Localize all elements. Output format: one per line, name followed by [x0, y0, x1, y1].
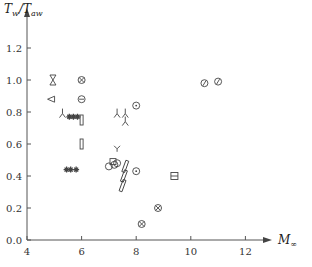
y-axis [24, 8, 30, 240]
x-tick-label: 4 [24, 246, 30, 257]
x-ticks: 4681012 [24, 236, 252, 257]
y-tick-label: 1.2 [6, 43, 22, 54]
data-point-bowtie [50, 75, 56, 85]
x-tick-label: 10 [184, 246, 197, 257]
data-point-circle-slash [201, 80, 208, 87]
y-tick-label: 1.0 [6, 75, 22, 86]
data-point-box-plus [171, 173, 178, 180]
x-tick-label: 12 [239, 246, 252, 257]
data-point-circle-dot [133, 168, 140, 175]
data-point-tripod [114, 109, 120, 118]
data-point-tripod [59, 109, 65, 118]
x-axis [27, 237, 272, 243]
data-point-y [114, 146, 120, 152]
y-tick-label: 0.4 [6, 171, 22, 182]
data-point-circle-x [78, 77, 85, 84]
y-tick-label: 0.2 [6, 203, 22, 214]
data-point-star [68, 167, 74, 173]
x-axis-title: M∞ [277, 233, 297, 249]
data-point-circle-x [138, 221, 145, 228]
data-point-tripod [122, 109, 128, 118]
data-points [48, 75, 222, 228]
data-point-tripod [122, 117, 128, 126]
scatter-chart: 0.00.20.40.60.81.01.2 4681012 Tw/Taw M∞ [0, 0, 312, 267]
x-tick-label: 6 [78, 246, 84, 257]
data-point-vrect [80, 115, 83, 125]
y-tick-label: 0.0 [6, 235, 22, 246]
data-point-circle-slash [215, 78, 222, 85]
data-point-circle-dot [133, 102, 140, 109]
data-point-circle-minus [78, 96, 85, 103]
data-point-star [75, 114, 81, 120]
data-point-circle-x [155, 205, 162, 212]
y-axis-title: Tw/Taw [4, 2, 43, 18]
data-point-vrect [80, 139, 83, 149]
data-point-star [73, 167, 79, 173]
y-tick-label: 0.8 [6, 107, 22, 118]
data-point-tri-left [48, 96, 55, 102]
y-tick-label: 0.6 [6, 139, 22, 150]
x-tick-label: 8 [133, 246, 139, 257]
